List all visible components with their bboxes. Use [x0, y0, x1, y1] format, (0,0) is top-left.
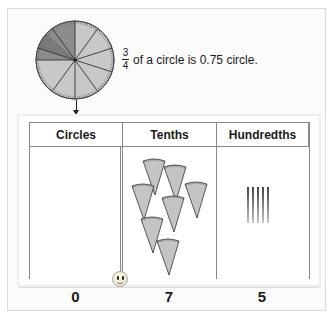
tenth-wedge	[164, 165, 186, 201]
tenth-wedge	[132, 184, 154, 220]
tenths-wedges	[0, 0, 334, 319]
divider-string	[120, 146, 121, 272]
total-circles: 0	[29, 288, 122, 305]
mouth	[117, 280, 123, 284]
tenth-wedge	[157, 239, 179, 275]
tenth-wedge	[162, 196, 184, 232]
hundredths-sticks	[247, 187, 269, 223]
totals-row: 0 7 5	[29, 288, 310, 305]
tenth-wedge	[185, 182, 207, 218]
total-tenths: 7	[122, 288, 216, 305]
smiley-face-icon	[112, 271, 128, 287]
total-hundredths: 5	[216, 288, 308, 305]
